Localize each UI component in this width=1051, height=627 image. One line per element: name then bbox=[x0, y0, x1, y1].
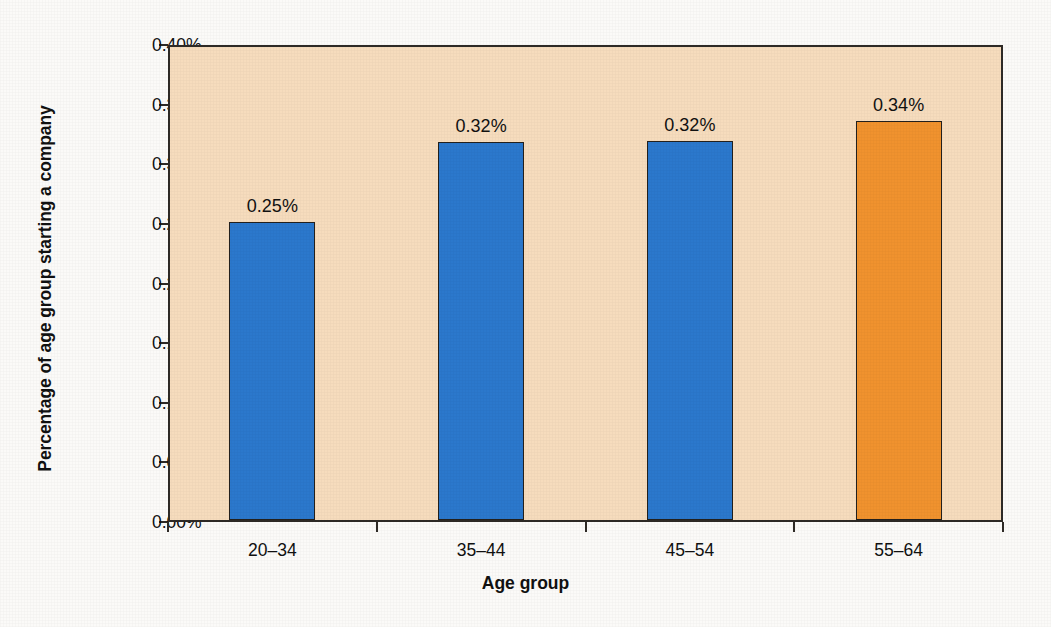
bar-value-label: 0.34% bbox=[873, 95, 924, 116]
plot-inner: 0.25%0.32%0.32%0.34% bbox=[170, 47, 1001, 520]
bar-35-44[interactable] bbox=[438, 142, 524, 520]
x-axis-category-label: 45–54 bbox=[666, 540, 715, 561]
plot-area: 0.25%0.32%0.32%0.34% bbox=[168, 45, 1003, 522]
x-axis-category-label: 20–34 bbox=[248, 540, 297, 561]
x-axis-category-label: 35–44 bbox=[457, 540, 506, 561]
bar-20-34[interactable] bbox=[229, 222, 315, 520]
bar-45-54[interactable] bbox=[647, 141, 733, 520]
y-axis-title: Percentage of age group starting a compa… bbox=[35, 29, 56, 549]
bar-55-64[interactable] bbox=[856, 121, 942, 520]
x-axis-tick-mark bbox=[376, 522, 378, 532]
x-axis-tick-mark bbox=[585, 522, 587, 532]
bar-chart: Percentage of age group starting a compa… bbox=[0, 0, 1051, 627]
x-axis-title: Age group bbox=[0, 573, 1051, 594]
x-axis-category-label: 55–64 bbox=[874, 540, 923, 561]
bar-value-label: 0.32% bbox=[664, 115, 715, 136]
x-axis-tick-mark bbox=[793, 522, 795, 532]
bar-value-label: 0.25% bbox=[247, 196, 298, 217]
bar-value-label: 0.32% bbox=[456, 116, 507, 137]
x-axis-tick-mark bbox=[167, 522, 169, 532]
x-axis-tick-mark bbox=[1002, 522, 1004, 532]
